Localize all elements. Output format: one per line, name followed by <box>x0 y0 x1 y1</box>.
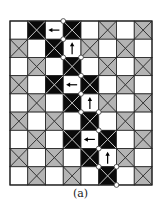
white-cell <box>10 94 28 112</box>
white-cell <box>10 130 28 148</box>
white-cell <box>46 57 64 75</box>
white-cell <box>10 21 28 39</box>
white-cell <box>28 112 46 130</box>
white-cell <box>117 57 135 75</box>
white-cell <box>63 149 81 167</box>
white-cell <box>28 76 46 94</box>
white-cell <box>99 76 117 94</box>
vertex-dot <box>114 164 119 169</box>
vertex-dot <box>61 55 66 60</box>
white-cell <box>117 167 135 185</box>
white-cell <box>117 94 135 112</box>
vertex-dot <box>79 73 84 78</box>
white-cell <box>81 57 99 75</box>
white-cell <box>81 21 99 39</box>
white-cell <box>28 149 46 167</box>
white-cell <box>46 130 64 148</box>
figure-caption: (a) <box>0 187 161 200</box>
white-cell <box>10 167 28 185</box>
vertex-dot <box>61 19 66 24</box>
vertex-dot <box>96 164 101 169</box>
vertex-dot <box>96 146 101 151</box>
white-cell <box>28 39 46 57</box>
checkerboard-diagram <box>0 0 161 206</box>
white-cell <box>117 21 135 39</box>
white-cell <box>46 94 64 112</box>
white-cell <box>134 149 152 167</box>
vertex-dot <box>79 110 84 115</box>
white-cell <box>46 167 64 185</box>
vertex-dot <box>79 55 84 60</box>
white-cell <box>134 39 152 57</box>
vertex-dot <box>96 128 101 133</box>
white-cell <box>99 112 117 130</box>
white-cell <box>63 112 81 130</box>
white-cell <box>134 76 152 94</box>
white-cell <box>134 112 152 130</box>
white-cell <box>117 130 135 148</box>
white-cell <box>99 39 117 57</box>
vertex-dot <box>96 110 101 115</box>
white-cell <box>10 57 28 75</box>
white-cell <box>81 167 99 185</box>
vertex-dot <box>61 37 66 42</box>
vertex-dot <box>79 91 84 96</box>
